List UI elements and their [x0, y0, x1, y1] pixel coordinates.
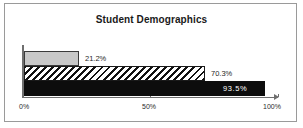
x-tick-0: [22, 94, 23, 97]
bar-gray[interactable]: [24, 51, 79, 66]
x-tick-100: [278, 94, 279, 97]
x-axis-line: [22, 97, 278, 98]
bar-hatched[interactable]: [24, 66, 205, 81]
plot-area: 0% 50% 100% 21.2% 70.3% 93.5%: [5, 4, 298, 123]
x-tick-label-0: 0%: [19, 103, 29, 110]
chart-frame: Student Demographics 0% 50% 100% 21.2% 7…: [4, 3, 297, 122]
x-tick-label-50: 50%: [142, 103, 156, 110]
bar-label-hatched: 70.3%: [211, 69, 232, 78]
bar-label-gray: 21.2%: [85, 54, 106, 63]
bar-label-black: 93.5%: [223, 84, 247, 93]
x-tick-label-100: 100%: [263, 103, 281, 110]
